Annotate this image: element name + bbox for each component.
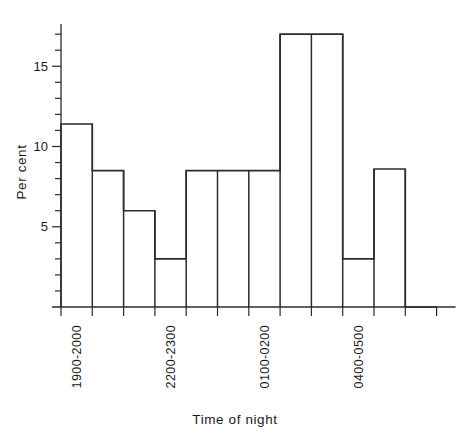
x-category-label: 2200-2300: [164, 325, 178, 388]
y-tick-label: 5: [41, 219, 48, 234]
x-axis-title: Time of night: [192, 412, 277, 427]
y-tick-label: 10: [34, 139, 48, 154]
x-category-label: 1900-2000: [70, 325, 84, 388]
histogram-chart: 51015 1900-20002200-23000100-02000400-05…: [0, 0, 468, 444]
chart-canvas: 51015 1900-20002200-23000100-02000400-05…: [0, 0, 468, 444]
x-category-label: 0100-0200: [258, 325, 272, 388]
x-category-label: 0400-0500: [352, 325, 366, 388]
y-tick-label: 15: [34, 59, 48, 74]
y-axis-title: Per cent: [14, 144, 29, 199]
